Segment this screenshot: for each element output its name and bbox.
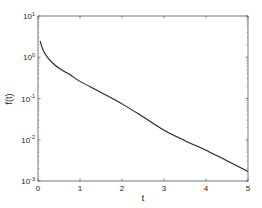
y-tick-label: 100 — [23, 52, 35, 63]
y-axis-label: f(t) — [4, 94, 14, 105]
x-tick-label: 4 — [204, 184, 209, 193]
x-tick-label: 2 — [120, 184, 125, 193]
y-tick-label: 101 — [23, 11, 35, 22]
y-tick-label: 10-2 — [21, 134, 35, 145]
x-tick-label: 5 — [246, 184, 251, 193]
plot-frame — [38, 16, 248, 181]
line-chart: 012345 10110010-110-210-3 t f(t) — [0, 0, 262, 208]
x-tick-label: 0 — [36, 184, 41, 193]
x-tick-label: 3 — [162, 184, 167, 193]
y-tick-label: 10-1 — [21, 93, 35, 104]
x-axis-label: t — [142, 193, 145, 203]
x-tick-label: 1 — [78, 184, 83, 193]
y-tick-label: 10-3 — [21, 176, 35, 187]
